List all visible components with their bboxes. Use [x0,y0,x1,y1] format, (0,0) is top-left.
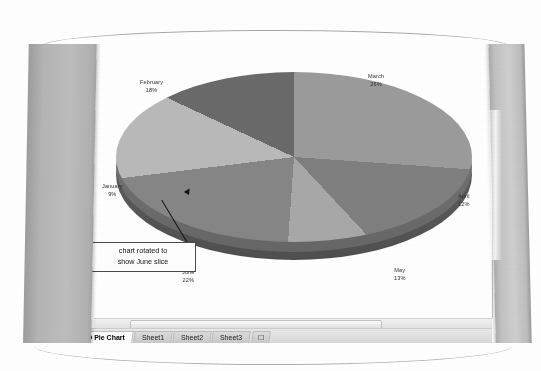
pie-chart-3d[interactable] [116,72,472,242]
pie-top-surface[interactable] [116,72,472,242]
slice-label-march: March26% [368,72,384,88]
slice-label-february: February18% [140,78,163,94]
page-curl-highlight [486,110,502,260]
slice-label-january: January9% [102,182,123,198]
insert-worksheet-glyph: ☐ [257,334,263,342]
insert-worksheet-icon[interactable]: ☐ [251,331,271,344]
sheet-tab-label: Sheet2 [181,334,203,341]
slice-label-april: April12% [458,192,470,208]
sheet-tab-sheet3[interactable]: Sheet3 [212,331,252,343]
callout-line-2: show June slice [118,257,169,266]
sheet-tab-label: Sheet1 [142,334,164,341]
scanned-book-page: Semiannual Financial Projections Februar… [0,0,541,371]
excel-chart-sheet: Semiannual Financial Projections Februar… [94,26,493,318]
chart-plot-area[interactable]: February18% March26% April12% May13% Jun… [94,44,492,318]
sheet-tab-sheet2[interactable]: Sheet2 [172,331,212,343]
callout-annotation: chart rotated to show June slice [90,242,196,272]
sheet-tab-sheet1[interactable]: Sheet1 [133,331,173,343]
page-gutter-left [23,32,97,347]
callout-line-1: chart rotated to [119,246,167,255]
slice-label-may: May13% [394,266,406,282]
sheet-tab-label: Sheet3 [220,334,242,341]
